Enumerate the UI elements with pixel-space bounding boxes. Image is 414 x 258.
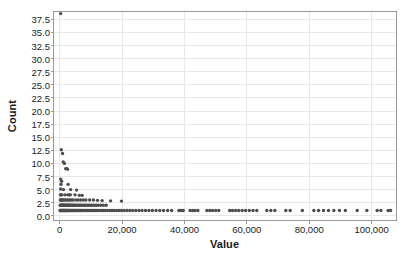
- data-point: [62, 188, 65, 191]
- data-point: [59, 183, 62, 186]
- data-point: [66, 183, 69, 186]
- data-point: [80, 194, 83, 197]
- data-point: [284, 209, 287, 212]
- data-point: [356, 209, 359, 212]
- data-point: [84, 198, 87, 201]
- data-point: [60, 180, 63, 183]
- data-point: [332, 209, 335, 212]
- data-point: [144, 209, 147, 212]
- data-point: [389, 209, 392, 212]
- data-point: [92, 198, 95, 201]
- data-point: [237, 209, 240, 212]
- data-point: [120, 199, 123, 202]
- data-point: [240, 209, 243, 212]
- data-point: [162, 209, 165, 212]
- data-point: [69, 188, 72, 191]
- data-point: [75, 188, 78, 191]
- data-point: [131, 209, 134, 212]
- tick-marks: [51, 19, 372, 223]
- data-point: [211, 209, 214, 212]
- data-point: [234, 209, 237, 212]
- data-point: [60, 193, 63, 196]
- data-point: [217, 209, 220, 212]
- data-point: [73, 193, 76, 196]
- data-point: [60, 148, 63, 151]
- data-point: [338, 209, 341, 212]
- data-point: [214, 209, 217, 212]
- data-point: [154, 209, 157, 212]
- data-point: [365, 209, 368, 212]
- data-point: [255, 209, 258, 212]
- data-point: [288, 209, 291, 212]
- data-point: [59, 12, 62, 15]
- data-point: [322, 209, 325, 212]
- data-point: [379, 209, 382, 212]
- data-point: [105, 204, 108, 207]
- data-point: [244, 209, 247, 212]
- data-point: [251, 209, 254, 212]
- data-point: [88, 198, 91, 201]
- data-point: [231, 209, 234, 212]
- data-point: [182, 209, 185, 212]
- data-point: [109, 199, 112, 202]
- data-point: [96, 199, 99, 202]
- data-point: [317, 209, 320, 212]
- data-point: [100, 199, 103, 202]
- data-point: [158, 209, 161, 212]
- data-point: [134, 209, 137, 212]
- data-point: [61, 152, 64, 155]
- data-point: [170, 209, 173, 212]
- data-point: [151, 209, 154, 212]
- data-point: [269, 209, 272, 212]
- data-point: [140, 209, 143, 212]
- data-point: [327, 209, 330, 212]
- scatter-plot-figure: Count Value 0.02.55.07.510.012.515.017.5…: [0, 0, 414, 258]
- gridlines: [54, 12, 397, 221]
- data-point: [137, 209, 140, 212]
- data-point: [344, 209, 347, 212]
- data-point: [69, 193, 72, 196]
- data-markers: [58, 12, 392, 212]
- data-point: [66, 167, 69, 170]
- data-point: [375, 209, 378, 212]
- data-point: [248, 209, 251, 212]
- data-point: [273, 209, 276, 212]
- data-point: [301, 209, 304, 212]
- plot-area: [0, 0, 414, 258]
- data-point: [196, 209, 199, 212]
- data-point: [63, 162, 66, 165]
- data-point: [265, 209, 268, 212]
- data-point: [147, 209, 150, 212]
- data-point: [166, 209, 169, 212]
- data-point: [312, 209, 315, 212]
- data-point: [59, 187, 62, 190]
